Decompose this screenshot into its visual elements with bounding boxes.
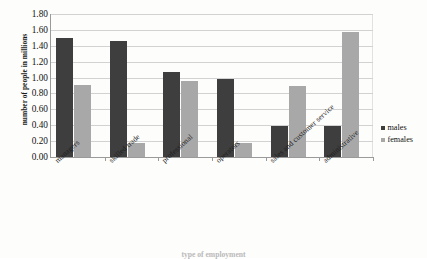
bar-group <box>212 14 266 157</box>
legend-item-males[interactable]: males <box>381 122 427 133</box>
plot-area <box>50 14 373 158</box>
y-axis-tick-label: 1.80 <box>22 9 48 19</box>
y-axis-tick-label: 0.20 <box>22 136 48 146</box>
y-axis-tick-label: 1.40 <box>22 41 48 51</box>
legend: males females <box>381 122 427 146</box>
y-axis-tick-label: 0.60 <box>22 104 48 114</box>
y-axis-tick-labels: 1.801.601.401.201.000.800.600.400.200.00 <box>22 9 48 161</box>
legend-item-label: females <box>388 135 413 144</box>
y-axis-tick-label: 0.80 <box>22 88 48 98</box>
legend-swatch-icon <box>381 126 385 130</box>
bar-group <box>51 14 105 157</box>
bars-layer <box>51 14 373 157</box>
y-axis-tick-label: 0.40 <box>22 120 48 130</box>
bar <box>110 41 127 157</box>
y-axis-tick-label: 1.20 <box>22 57 48 67</box>
legend-swatch-icon <box>381 138 385 142</box>
x-axis-category-labels: managersskilled tradeprofessionaloperato… <box>50 158 390 248</box>
legend-item-label: males <box>388 123 407 132</box>
legend-item-females[interactable]: females <box>381 134 427 145</box>
y-axis-tick-label: 0.00 <box>22 152 48 162</box>
y-axis-tick-label: 1.60 <box>22 25 48 35</box>
bar <box>56 38 73 157</box>
y-axis-tick-label: 1.00 <box>22 73 48 83</box>
x-axis-title: type of employment <box>0 250 427 259</box>
